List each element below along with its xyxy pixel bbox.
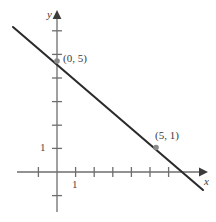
- x-axis-label: x: [204, 176, 209, 187]
- y-axis-arrow: [53, 10, 62, 19]
- y-axis: [52, 10, 62, 212]
- coordinate-plane-svg: [0, 0, 216, 222]
- y-axis-label: y: [47, 9, 52, 20]
- graph-figure: y x 1 1 (0, 5) (5, 1): [0, 0, 216, 222]
- plotted-line: [13, 27, 203, 190]
- x-axis-tick-label-1: 1: [72, 179, 78, 190]
- point-label-0-5: (0, 5): [63, 53, 87, 64]
- point-label-5-1: (5, 1): [155, 130, 179, 141]
- data-point-0-5: [54, 58, 60, 64]
- data-point-5-1: [153, 145, 159, 151]
- y-axis-tick-label-1: 1: [40, 142, 46, 153]
